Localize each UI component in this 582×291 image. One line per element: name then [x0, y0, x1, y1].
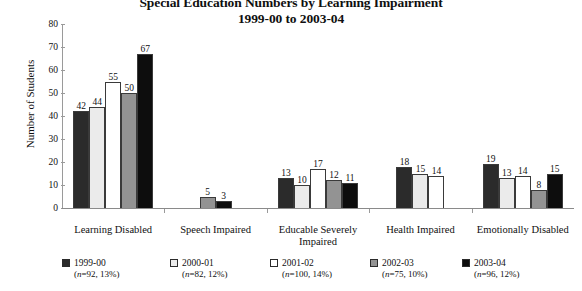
bar-group: 1310171211 — [278, 24, 358, 208]
category-label-line1: Health Impaired — [386, 224, 455, 235]
bar-value-label: 42 — [76, 101, 86, 111]
bar: 5 — [200, 197, 216, 209]
bar-group: 191314815 — [483, 24, 563, 208]
chart-title: Special Education Numbers by Learning Im… — [0, 0, 582, 26]
category-labels: Learning DisabledSpeech ImpairedEducable… — [62, 224, 574, 252]
legend-swatch — [270, 259, 278, 267]
bar-value-label: 19 — [486, 154, 496, 164]
bar-group: 4244555067 — [73, 24, 153, 208]
bar: 18 — [396, 167, 412, 208]
y-axis-tick-label: 40 — [28, 112, 58, 122]
plot-area: Number of Students 80706050403020100 424… — [0, 24, 582, 220]
legend-swatch — [62, 259, 70, 267]
legend-swatch — [370, 259, 378, 267]
legend-sublabel: (n=96, 12%) — [474, 269, 520, 280]
bar-value-label: 3 — [221, 191, 226, 201]
category-label: Learning Disabled — [62, 224, 164, 236]
y-axis-tick-label: 0 — [28, 204, 58, 214]
y-axis-tick-label: 30 — [28, 135, 58, 145]
legend-item[interactable]: 1999-00(n=92, 13%) — [62, 258, 120, 280]
bar-value-label: 5 — [205, 187, 210, 197]
y-axis-tick-label: 80 — [28, 20, 58, 30]
legend-sublabel: (n=75, 10%) — [382, 269, 428, 280]
legend-item[interactable]: 2000-01(n=82, 12%) — [170, 258, 228, 280]
legend-item[interactable]: 2002-03(n=75, 10%) — [370, 258, 428, 280]
y-axis-ticks: 80706050403020100 — [28, 24, 62, 208]
y-axis-tick-label: 70 — [28, 43, 58, 53]
legend-label: 2003-04 — [474, 258, 520, 269]
category-label: Speech Impaired — [164, 224, 266, 236]
bar-value-label: 50 — [124, 83, 134, 93]
category-label: Health Impaired — [369, 224, 471, 236]
legend-sublabel: (n=92, 13%) — [74, 269, 120, 280]
legend-label: 2000-01 — [182, 258, 228, 269]
bar-group: 53 — [200, 24, 232, 208]
legend-label: 2002-03 — [382, 258, 428, 269]
bar: 50 — [121, 93, 137, 208]
bar: 3 — [216, 201, 232, 208]
legend-sublabel: (n=82, 12%) — [182, 269, 228, 280]
category-label-line1: Educable Severely — [279, 224, 357, 235]
bar-value-label: 12 — [329, 170, 339, 180]
bars-layer: 4244555067531310171211181514191314815 — [62, 24, 574, 209]
chart-legend: 1999-00(n=92, 13%)2000-01(n=82, 12%)2001… — [0, 258, 582, 288]
y-axis-tick-label: 10 — [28, 181, 58, 191]
bar: 55 — [105, 82, 121, 209]
legend-item[interactable]: 2003-04(n=96, 12%) — [462, 258, 520, 280]
bar: 10 — [294, 185, 310, 208]
category-label-line1: Learning Disabled — [74, 224, 152, 235]
bar: 67 — [137, 54, 153, 208]
bar: 19 — [483, 164, 499, 208]
bar-value-label: 14 — [432, 166, 442, 176]
bar-value-label: 15 — [416, 164, 426, 174]
bar: 12 — [326, 180, 342, 208]
legend-swatch — [170, 259, 178, 267]
y-axis-tick-label: 20 — [28, 158, 58, 168]
x-axis-tick-mark — [369, 209, 370, 213]
category-label: Emotionally Disabled — [472, 224, 574, 236]
bar: 8 — [531, 190, 547, 208]
legend-label: 1999-00 — [74, 258, 120, 269]
category-label: Educable SeverelyImpaired — [267, 224, 369, 248]
legend-swatch — [462, 259, 470, 267]
bar: 14 — [428, 176, 444, 208]
bar: 42 — [73, 111, 89, 208]
x-axis-tick-mark — [267, 209, 268, 213]
bar: 11 — [342, 183, 358, 208]
chart-title-line1: Special Education Numbers by Learning Im… — [0, 0, 582, 11]
bar: 44 — [89, 107, 105, 208]
bar-value-label: 15 — [550, 164, 560, 174]
bar-value-label: 10 — [297, 175, 307, 185]
bar: 14 — [515, 176, 531, 208]
bar-group: 181514 — [396, 24, 444, 208]
bar-value-label: 11 — [345, 173, 354, 183]
bar-value-label: 67 — [140, 44, 150, 54]
bar: 13 — [278, 178, 294, 208]
bar: 13 — [499, 178, 515, 208]
y-axis-tick-label: 50 — [28, 89, 58, 99]
bar-value-label: 8 — [536, 180, 541, 190]
y-axis-tick-label: 60 — [28, 66, 58, 76]
category-label-line1: Emotionally Disabled — [477, 224, 569, 235]
bar-value-label: 44 — [92, 97, 102, 107]
x-axis-tick-mark — [164, 209, 165, 213]
category-label-line2: Impaired — [299, 236, 337, 247]
bar-value-label: 55 — [108, 72, 118, 82]
bar-value-label: 13 — [281, 168, 291, 178]
bar-value-label: 18 — [400, 157, 410, 167]
legend-item[interactable]: 2001-02(n=100, 14%) — [270, 258, 332, 280]
bar: 15 — [547, 174, 563, 209]
bar-value-label: 14 — [518, 166, 528, 176]
bar-value-label: 17 — [313, 159, 323, 169]
bar: 17 — [310, 169, 326, 208]
bar: 15 — [412, 174, 428, 209]
bar-value-label: 13 — [502, 168, 512, 178]
legend-sublabel: (n=100, 14%) — [282, 269, 332, 280]
x-axis-tick-mark — [472, 209, 473, 213]
legend-label: 2001-02 — [282, 258, 332, 269]
category-label-line1: Speech Impaired — [180, 224, 251, 235]
